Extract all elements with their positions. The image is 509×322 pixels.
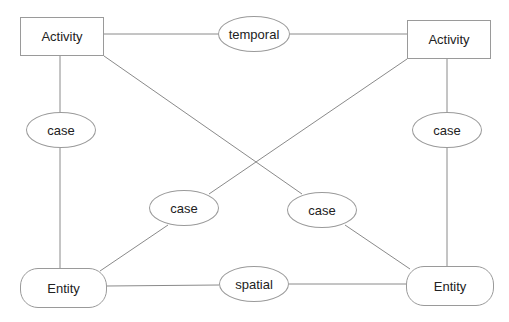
edge-entity-left-spatial — [107, 285, 219, 286]
edge-activity-left-case-mid-right — [104, 56, 302, 194]
activity-node-right[interactable]: Activity — [407, 20, 491, 59]
entity-node-right[interactable]: Entity — [406, 266, 494, 306]
case-mid-right-label: case — [308, 203, 335, 218]
temporal-label: temporal — [229, 27, 280, 42]
case-relation-node-mid-right[interactable]: case — [287, 192, 357, 228]
case-left-label: case — [47, 123, 74, 138]
edge-activity-right-case-mid-left — [209, 59, 407, 194]
activity-node-left[interactable]: Activity — [20, 17, 104, 56]
temporal-relation-node[interactable]: temporal — [218, 16, 290, 52]
activity-right-label: Activity — [428, 32, 469, 47]
spatial-label: spatial — [235, 277, 273, 292]
spatial-relation-node[interactable]: spatial — [219, 266, 289, 302]
case-relation-node-mid-left[interactable]: case — [149, 190, 219, 226]
activity-left-label: Activity — [41, 29, 82, 44]
entity-node-left[interactable]: Entity — [20, 268, 107, 308]
case-relation-node-right[interactable]: case — [412, 112, 482, 148]
case-relation-node-left[interactable]: case — [26, 112, 96, 148]
entity-left-label: Entity — [47, 281, 80, 296]
edge-case-mid-left-entity-left — [100, 225, 168, 271]
case-mid-left-label: case — [170, 201, 197, 216]
entity-right-label: Entity — [434, 279, 467, 294]
edge-case-mid-right-entity-right — [345, 225, 410, 269]
case-right-label: case — [433, 123, 460, 138]
